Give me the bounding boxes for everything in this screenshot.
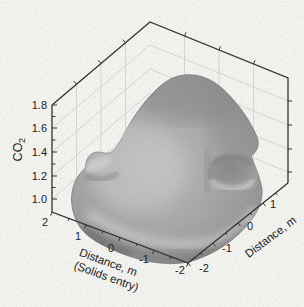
co2-surface-figure: 1.8 1.6 1.4 1.2 1.0 CO 2 2 1 0 -1 -2 Dis… — [0, 0, 304, 307]
x-tick-label: 2 — [42, 216, 48, 228]
z-axis-label-subscript: 2 — [17, 138, 27, 143]
z-tick-label: 1.4 — [32, 146, 47, 158]
y-tick-label: -2 — [199, 262, 209, 274]
x-tick-label: -2 — [175, 264, 185, 276]
z-tick-label: 1.0 — [32, 193, 47, 205]
z-axis-label: CO — [11, 142, 25, 161]
y-tick-label: 0 — [247, 220, 253, 232]
x-tick-label: -1 — [139, 253, 149, 265]
z-tick-label: 1.2 — [32, 170, 47, 182]
y-tick-label: -1 — [222, 242, 232, 254]
z-tick-label: 1.6 — [32, 122, 47, 134]
z-tick-label: 1.8 — [32, 99, 47, 111]
y-tick-label: 1 — [270, 198, 276, 210]
x-tick-label: 1 — [75, 230, 81, 242]
x-tick-label: 0 — [108, 242, 114, 254]
surface-plot-svg: 1.8 1.6 1.4 1.2 1.0 CO 2 2 1 0 -1 -2 Dis… — [0, 0, 304, 307]
